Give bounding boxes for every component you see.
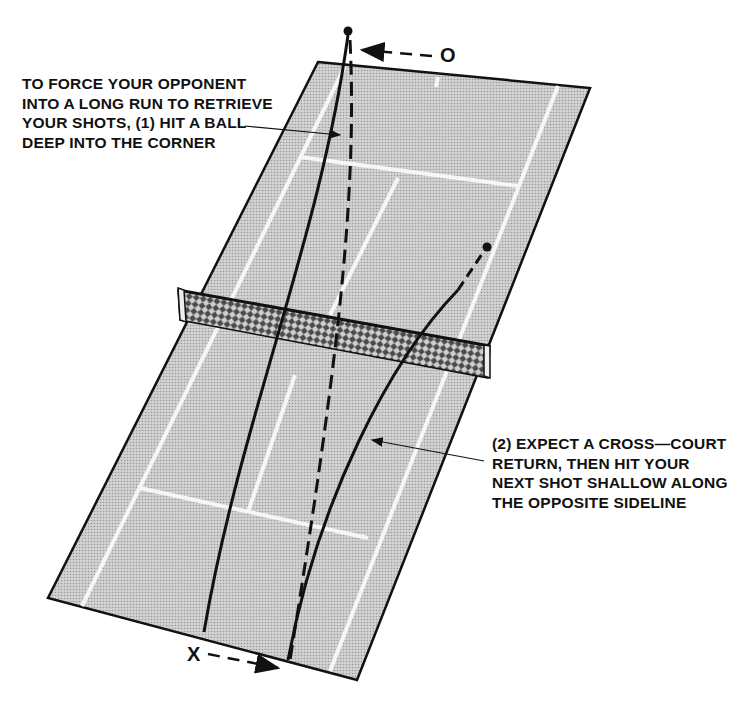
opponent-movement-arrow [362,50,432,56]
ball-marker-shot2 [483,243,492,252]
net-post-right [484,345,490,378]
court-surface [48,62,590,680]
net-post-left [178,288,186,322]
caption-line: DEEP INTO THE CORNER [22,133,273,153]
opponent-label: O [440,44,456,67]
caption-line: (2) EXPECT A CROSS—COURT [492,434,728,454]
caption-line: TO FORCE YOUR OPPONENT [22,74,273,94]
caption-line: YOUR SHOTS, (1) HIT A BALL [22,113,273,133]
caption-step-2: (2) EXPECT A CROSS—COURT RETURN, THEN HI… [492,434,728,512]
caption-line: RETURN, THEN HIT YOUR [492,454,728,474]
caption-line: THE OPPOSITE SIDELINE [492,493,728,513]
ball-marker-far [344,27,353,36]
player-label: X [187,643,200,666]
caption-line: INTO A LONG RUN TO RETRIEVE [22,94,273,114]
caption-step-1: TO FORCE YOUR OPPONENT INTO A LONG RUN T… [22,74,273,152]
caption-line: NEXT SHOT SHALLOW ALONG [492,473,728,493]
